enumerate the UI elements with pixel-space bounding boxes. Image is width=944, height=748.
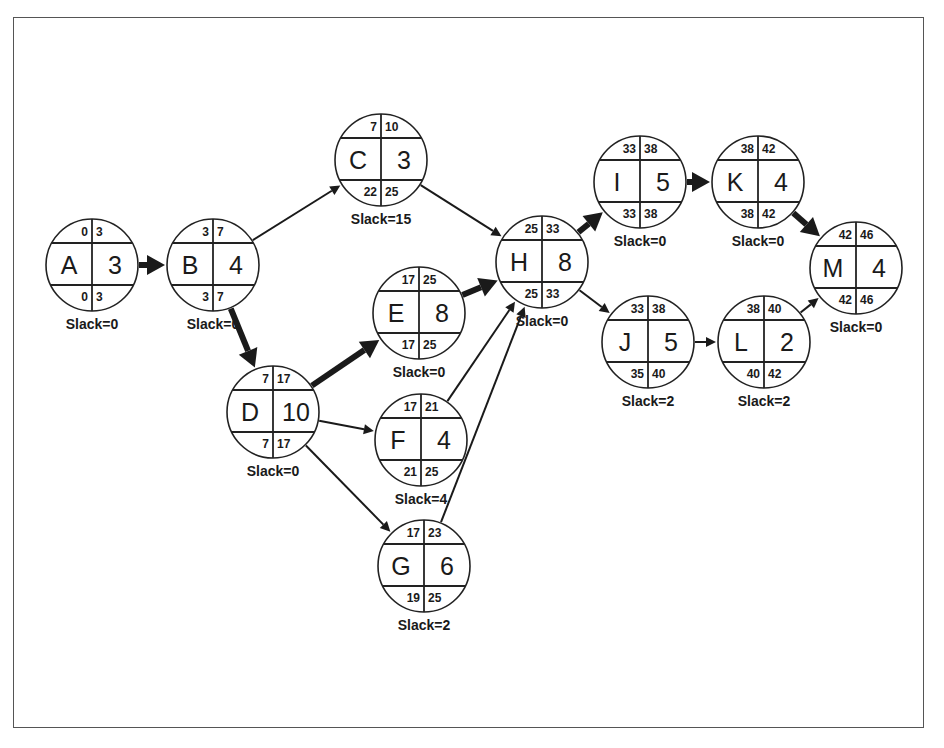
node-id-label: C [349, 146, 367, 174]
early-finish-value: 46 [860, 228, 874, 242]
early-start-value: 17 [402, 273, 416, 287]
node-duration-label: 4 [774, 168, 788, 196]
arrowhead-icon [505, 302, 515, 313]
late-finish-value: 42 [762, 207, 776, 221]
slack-label: Slack=2 [622, 393, 675, 409]
node-id-label: B [182, 251, 199, 279]
early-start-value: 25 [525, 222, 539, 236]
edge-line [580, 290, 602, 307]
edge-line [801, 304, 811, 312]
arrowhead-icon [363, 424, 374, 434]
node-id-label: E [388, 299, 405, 327]
late-start-value: 22 [364, 185, 378, 199]
node-e: E817251725Slack=0 [373, 267, 465, 380]
nodes-layer: A30303Slack=0B43737Slack=0C37102225Slack… [46, 114, 902, 633]
node-duration-label: 5 [656, 168, 670, 196]
late-start-value: 17 [402, 338, 416, 352]
edge-k-m [793, 213, 820, 236]
slack-label: Slack=0 [187, 316, 240, 332]
early-finish-value: 25 [423, 273, 437, 287]
edge-line [421, 185, 493, 231]
slack-label: Slack=0 [66, 316, 119, 332]
early-start-value: 7 [262, 372, 269, 386]
edge-d-f [319, 421, 374, 434]
edge-line [306, 446, 383, 525]
late-start-value: 38 [741, 207, 755, 221]
early-finish-value: 10 [385, 120, 399, 134]
edge-d-e [312, 340, 379, 386]
late-finish-value: 40 [652, 367, 666, 381]
late-finish-value: 25 [385, 185, 399, 199]
early-finish-value: 23 [428, 526, 442, 540]
late-finish-value: 17 [277, 437, 291, 451]
early-start-value: 7 [370, 120, 377, 134]
edge-l-m [801, 298, 819, 312]
node-duration-label: 5 [664, 328, 678, 356]
edges-layer [139, 172, 820, 532]
early-start-value: 0 [81, 225, 88, 239]
node-duration-label: 8 [558, 248, 572, 276]
node-d: D10717717Slack=0 [227, 366, 319, 479]
node-id-label: D [241, 398, 259, 426]
arrowhead-icon [692, 172, 710, 192]
node-id-label: A [61, 251, 78, 279]
node-m: M442464246Slack=0 [810, 222, 902, 335]
late-finish-value: 46 [860, 293, 874, 307]
early-finish-value: 38 [644, 142, 658, 156]
early-finish-value: 33 [546, 222, 560, 236]
edge-h-j [580, 290, 610, 313]
node-duration-label: 4 [437, 426, 451, 454]
node-b: B43737Slack=0 [167, 219, 259, 332]
slack-label: Slack=0 [830, 319, 883, 335]
early-finish-value: 42 [762, 142, 776, 156]
slack-label: Slack=0 [732, 233, 785, 249]
slack-label: Slack=2 [398, 617, 451, 633]
late-start-value: 19 [407, 591, 421, 605]
early-start-value: 38 [747, 302, 761, 316]
node-g: G617231925Slack=2 [378, 520, 470, 633]
early-start-value: 42 [839, 228, 853, 242]
slack-label: Slack=2 [738, 393, 791, 409]
late-finish-value: 25 [425, 465, 439, 479]
arrowhead-icon [147, 255, 165, 275]
node-id-label: G [391, 552, 410, 580]
early-start-value: 33 [623, 142, 637, 156]
node-duration-label: 2 [780, 328, 794, 356]
node-c: C37102225Slack=15 [335, 114, 427, 227]
node-id-label: K [727, 168, 744, 196]
node-j: J533383540Slack=2 [602, 296, 694, 409]
late-finish-value: 25 [428, 591, 442, 605]
node-id-label: H [510, 248, 528, 276]
node-a: A30303Slack=0 [46, 219, 138, 332]
node-id-label: M [823, 254, 844, 282]
edge-b-c [253, 185, 340, 240]
late-finish-value: 42 [768, 367, 782, 381]
early-finish-value: 3 [96, 225, 103, 239]
edge-i-k [687, 172, 710, 192]
node-duration-label: 6 [440, 552, 454, 580]
edge-line [462, 287, 481, 295]
late-start-value: 40 [747, 367, 761, 381]
late-finish-value: 33 [546, 287, 560, 301]
edge-line [319, 421, 364, 429]
late-finish-value: 25 [423, 338, 437, 352]
edge-line [312, 350, 364, 386]
node-id-label: J [619, 328, 632, 356]
edge-a-b [139, 255, 165, 275]
slack-label: Slack=0 [516, 313, 569, 329]
node-duration-label: 10 [282, 398, 310, 426]
node-id-label: F [390, 426, 405, 454]
late-start-value: 35 [631, 367, 645, 381]
edge-h-i [578, 212, 602, 232]
late-start-value: 7 [262, 437, 269, 451]
late-start-value: 3 [202, 290, 209, 304]
edge-e-h [462, 278, 497, 296]
early-start-value: 33 [631, 302, 645, 316]
early-start-value: 3 [202, 225, 209, 239]
node-l: L238404042Slack=2 [718, 296, 810, 409]
late-start-value: 33 [623, 207, 637, 221]
early-start-value: 17 [404, 400, 418, 414]
node-duration-label: 4 [872, 254, 886, 282]
late-finish-value: 7 [217, 290, 224, 304]
node-duration-label: 3 [108, 251, 122, 279]
